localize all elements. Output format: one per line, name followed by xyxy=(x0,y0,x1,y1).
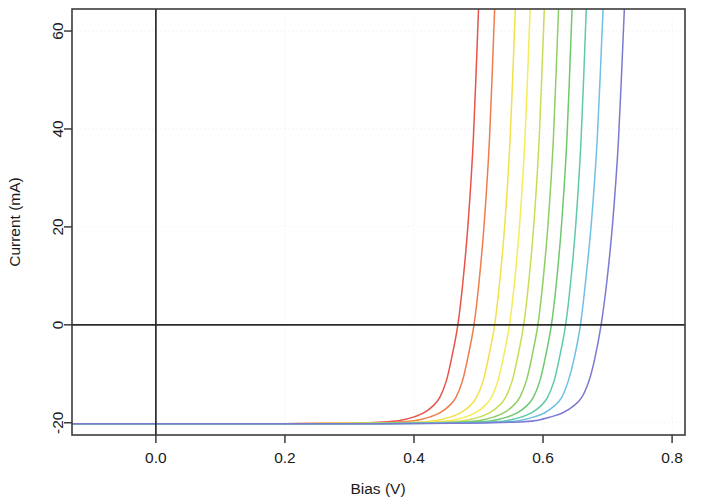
x-tick-label: 0.2 xyxy=(274,449,296,466)
x-tick-label: 0.6 xyxy=(532,449,554,466)
y-tick-label: -20 xyxy=(50,411,67,434)
x-tick-label: 0.8 xyxy=(661,449,683,466)
x-tick-label: 0.4 xyxy=(403,449,425,466)
y-axis-title: Current (mA) xyxy=(6,177,23,267)
iv-curve-chart: 0.00.20.40.60.8 -200204060 Bias (V) Curr… xyxy=(0,0,713,501)
y-tick-label: 0 xyxy=(50,320,67,329)
y-tick-label: 20 xyxy=(50,218,67,236)
x-axis-title: Bias (V) xyxy=(350,480,405,497)
plot-background xyxy=(72,9,685,435)
y-tick-label: 60 xyxy=(50,22,67,40)
y-axis-ticks: -200204060 xyxy=(50,22,73,434)
x-axis-ticks: 0.00.20.40.60.8 xyxy=(145,435,683,466)
x-tick-label: 0.0 xyxy=(145,449,167,466)
y-tick-label: 40 xyxy=(50,120,67,138)
